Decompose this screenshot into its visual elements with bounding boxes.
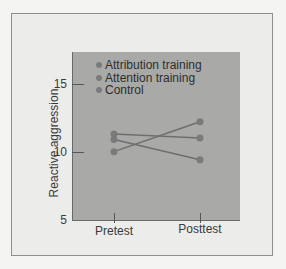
data-point xyxy=(197,156,204,163)
data-lines xyxy=(0,0,286,269)
data-point xyxy=(197,135,204,142)
data-point xyxy=(111,136,118,143)
data-point xyxy=(197,118,204,125)
series-line xyxy=(114,139,200,159)
data-point xyxy=(111,148,118,155)
